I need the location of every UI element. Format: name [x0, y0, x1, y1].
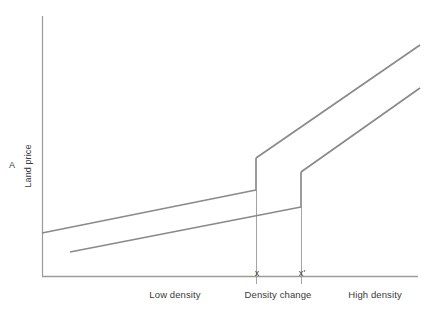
land-price-density-figure: Land price A x x' Low density Density ch… [0, 0, 432, 317]
x-tick-label-x: x [250, 268, 264, 279]
lower-curve-low-density-segment [70, 207, 301, 252]
chart-canvas [0, 0, 432, 317]
category-label-high-density: High density [325, 289, 425, 300]
upper-curve-low-density-segment [42, 190, 256, 233]
upper-curve-high-density-segment [256, 45, 420, 158]
curve-a-label: A [9, 160, 15, 171]
x-tick-label-x-prime: x' [295, 268, 309, 279]
category-label-low-density: Low density [125, 289, 225, 300]
lower-curve-high-density-segment [301, 88, 420, 172]
category-label-density-change: Density change [228, 289, 328, 300]
